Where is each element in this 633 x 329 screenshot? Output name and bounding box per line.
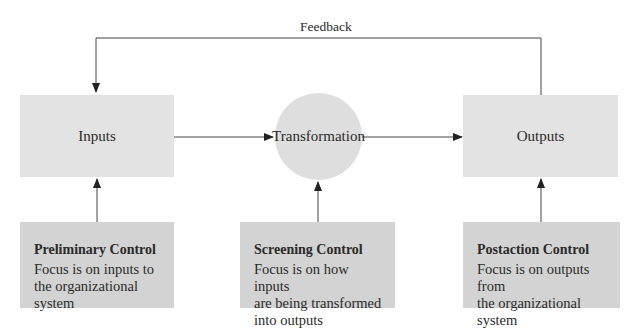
screening-control-title: Screening Control	[254, 242, 383, 258]
preliminary-control-line-1: Focus is on inputs to	[34, 261, 162, 278]
postaction-control-box: Postaction Control Focus is on outputs f…	[463, 222, 620, 308]
outputs-label: Outputs	[517, 128, 565, 145]
feedback-label: Feedback	[300, 19, 352, 35]
transformation-label: Transformation	[272, 128, 365, 145]
transformation-node: Transformation	[275, 93, 362, 180]
inputs-node: Inputs	[20, 95, 174, 177]
screening-control-line-2: are being transformed	[254, 295, 383, 312]
preliminary-control-title: Preliminary Control	[34, 242, 162, 258]
screening-control-box: Screening Control Focus is on how inputs…	[240, 222, 395, 308]
preliminary-control-box: Preliminary Control Focus is on inputs t…	[20, 222, 174, 308]
screening-control-line-1: Focus is on how inputs	[254, 261, 383, 295]
screening-control-line-3: into outputs	[254, 312, 383, 329]
inputs-label: Inputs	[78, 128, 116, 145]
postaction-control-line-2: the organizational system	[477, 295, 608, 329]
feedback-line	[96, 38, 541, 95]
postaction-control-title: Postaction Control	[477, 242, 608, 258]
outputs-node: Outputs	[463, 95, 618, 177]
preliminary-control-line-2: the organizational system	[34, 278, 162, 312]
postaction-control-line-1: Focus is on outputs from	[477, 261, 608, 295]
